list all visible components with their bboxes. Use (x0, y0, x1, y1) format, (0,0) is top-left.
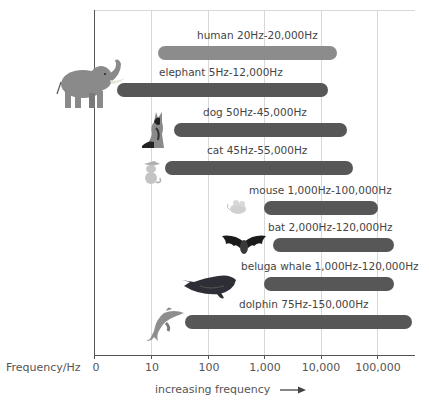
bat-icon (220, 232, 268, 258)
dolphin-icon (144, 305, 188, 345)
cat-icon (140, 158, 164, 186)
tick-label: 1,000 (249, 361, 281, 374)
tick-10 (151, 355, 152, 359)
range-bar (273, 238, 394, 252)
range-bar (165, 161, 353, 175)
bar-label: cat 45Hz-55,000Hz (207, 144, 307, 156)
bar-label: dog 50Hz-45,000Hz (203, 106, 307, 118)
bar-label: dolphin 75Hz-150,000Hz (239, 298, 369, 310)
range-bar (158, 46, 337, 60)
tick-label: 10,000 (302, 361, 341, 374)
frequency-range-chart: Frequency/Hz 0 10 100 1,000 10,000 100,0… (0, 0, 429, 412)
beluga-whale-icon (180, 272, 238, 302)
x-axis (94, 355, 415, 356)
gridline-100000 (377, 10, 378, 356)
range-bar (264, 277, 394, 291)
mouse-icon (226, 198, 250, 218)
range-bar (117, 83, 328, 97)
plot-top-border (94, 10, 415, 11)
caption-text: increasing frequency (155, 383, 270, 396)
tick-0 (94, 355, 95, 359)
tick-label: 100 (199, 361, 220, 374)
tick-label: 100,000 (355, 361, 401, 374)
gridline-100 (208, 10, 209, 356)
bar-label: human 20Hz-20,000Hz (197, 29, 318, 41)
bar-label: mouse 1,000Hz-100,000Hz (249, 184, 392, 196)
tick-100 (208, 355, 209, 359)
elephant-icon (55, 56, 130, 111)
axis-label: Frequency/Hz (6, 361, 81, 374)
bar-label: elephant 5Hz-12,000Hz (159, 66, 283, 78)
range-bar (185, 315, 412, 329)
x-axis-caption: increasing frequency (155, 383, 306, 396)
tick-100000 (377, 355, 378, 359)
bar-label: bat 2,000Hz-120,000Hz (268, 221, 393, 233)
dog-icon (140, 110, 168, 150)
range-bar (264, 201, 378, 215)
tick-10000 (321, 355, 322, 359)
tick-label: 0 (93, 361, 100, 374)
tick-label: 10 (145, 361, 159, 374)
right-arrow-icon (280, 386, 306, 394)
tick-1000 (264, 355, 265, 359)
range-bar (174, 123, 347, 137)
bar-label: beluga whale 1,000Hz-120,000Hz (241, 260, 419, 272)
